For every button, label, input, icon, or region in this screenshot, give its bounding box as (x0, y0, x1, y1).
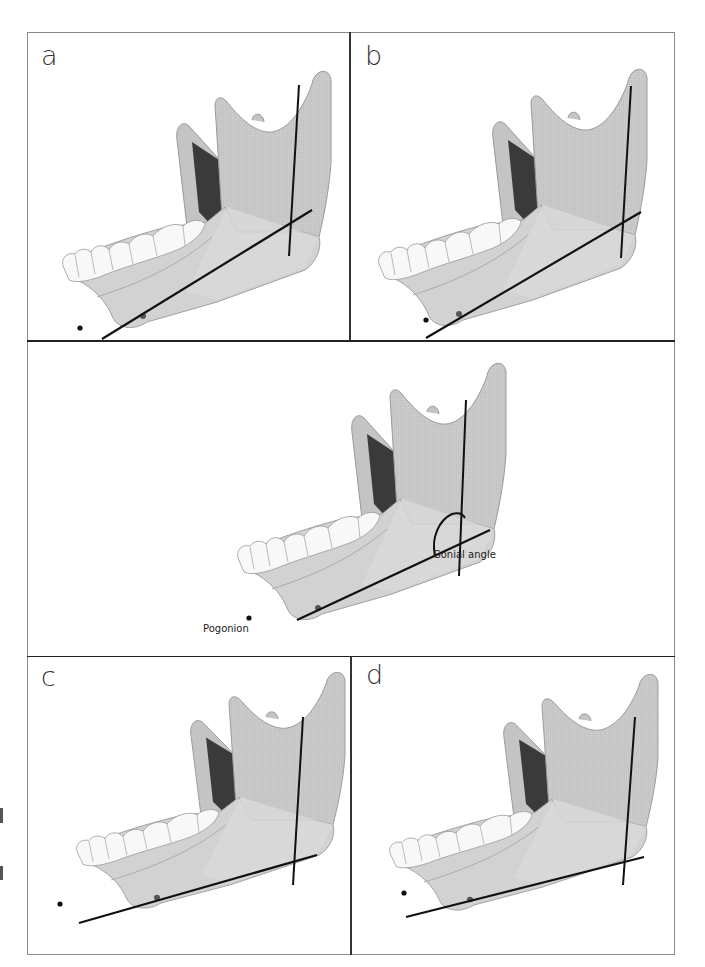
panel-b: b (351, 32, 675, 340)
mandible-illustration (351, 32, 675, 340)
edge-mark (0, 866, 3, 880)
panel-reference: Gonial angle Pogonion (27, 342, 675, 656)
panel-d: d (352, 657, 675, 955)
mandible-illustration (27, 342, 675, 656)
pogonion-label: Pogonion (203, 623, 249, 634)
pogonion-point (77, 325, 82, 330)
mandible-illustration (27, 657, 350, 955)
pogonion-point (423, 317, 428, 322)
gonial-angle-label: Gonial angle (433, 549, 496, 560)
panel-c: c (27, 657, 350, 955)
pogonion-point (401, 890, 406, 895)
mandible-illustration (352, 657, 675, 955)
pogonion-point (246, 615, 251, 620)
panel-a: a (27, 32, 349, 340)
mandible-illustration (27, 32, 349, 340)
edge-mark (0, 808, 3, 823)
pogonion-point (57, 901, 62, 906)
